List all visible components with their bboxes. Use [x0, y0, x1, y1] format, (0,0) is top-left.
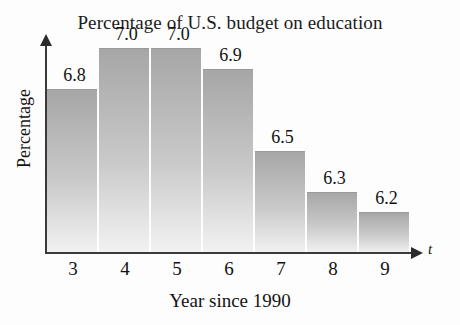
bar-top-edge	[307, 192, 357, 193]
y-axis-title: Percentage	[14, 69, 35, 189]
bar-top-edge	[99, 48, 149, 49]
chart-title: Percentage of U.S. budget on education	[0, 12, 460, 34]
bar	[203, 69, 254, 253]
y-axis-line	[45, 44, 47, 254]
x-axis-variable-label: t	[428, 241, 432, 258]
bar	[359, 212, 410, 253]
bar-chart: Percentage of U.S. budget on education t…	[0, 0, 460, 325]
bar-value-label: 6.5	[257, 127, 308, 148]
bar-value-label: 6.9	[205, 45, 256, 66]
bar-value-label: 7.0	[153, 24, 204, 45]
x-tick-label: 4	[99, 258, 151, 280]
bar-top-edge	[203, 69, 253, 70]
x-tick-label: 8	[307, 258, 359, 280]
bar-value-label: 6.2	[361, 188, 412, 209]
x-tick-label: 6	[203, 258, 255, 280]
bar-top-edge	[151, 48, 201, 49]
bar	[99, 48, 150, 253]
bar	[255, 151, 306, 253]
bar	[307, 192, 358, 253]
bar	[151, 48, 202, 253]
plot-area	[47, 38, 427, 253]
x-tick-label: 5	[151, 258, 203, 280]
bar	[47, 89, 98, 253]
bar-value-label: 6.8	[49, 65, 100, 86]
bar-top-edge	[255, 151, 305, 152]
x-tick-label: 7	[255, 258, 307, 280]
bar-top-edge	[47, 89, 97, 90]
bar-value-label: 6.3	[309, 168, 360, 189]
x-tick-label: 3	[47, 258, 99, 280]
bar-top-edge	[359, 212, 409, 213]
x-axis-title: Year since 1990	[0, 290, 460, 312]
x-tick-label: 9	[359, 258, 411, 280]
bar-value-label: 7.0	[101, 24, 152, 45]
x-axis-line	[45, 252, 413, 254]
x-axis-arrow-icon	[411, 247, 423, 259]
y-axis-arrow-icon	[40, 34, 52, 46]
